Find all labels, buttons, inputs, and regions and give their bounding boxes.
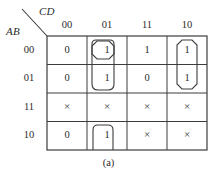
cell-r10-c00: 0 [47, 130, 87, 141]
column-header-10: 10 [167, 20, 207, 31]
cell-r00-c10: 1 [167, 45, 207, 56]
cell-r10-c11: × [127, 129, 167, 140]
cell-r00-c11: 1 [127, 45, 167, 56]
cell-r11-c00: × [47, 101, 87, 112]
column-header-00: 00 [47, 20, 87, 31]
cell-r00-c00: 0 [47, 45, 87, 56]
cell-r01-c10: 1 [167, 73, 207, 84]
column-header-01: 01 [87, 20, 127, 31]
column-variable-label: CD [39, 6, 55, 17]
cell-r01-c01: 1 [87, 73, 127, 84]
cell-r11-c11: × [127, 101, 167, 112]
cell-r01-c11: 0 [127, 73, 167, 84]
figure-caption: (a) [0, 158, 217, 169]
cell-r00-c01: 1 [87, 45, 127, 56]
cell-r10-c10: × [167, 129, 207, 140]
row-header-11: 11 [16, 102, 42, 113]
cell-r11-c10: × [167, 101, 207, 112]
row-variable-label: AB [6, 26, 20, 37]
column-header-11: 11 [127, 20, 167, 31]
karnaugh-map-figure: CD AB 00 01 11 10 00 01 11 10 0 1 1 1 0 … [0, 0, 217, 175]
cell-r01-c00: 0 [47, 73, 87, 84]
row-header-10: 10 [16, 130, 42, 141]
row-header-01: 01 [16, 73, 42, 84]
row-header-00: 00 [16, 45, 42, 56]
cell-r11-c01: × [87, 101, 127, 112]
cell-r10-c01: 1 [87, 130, 127, 141]
